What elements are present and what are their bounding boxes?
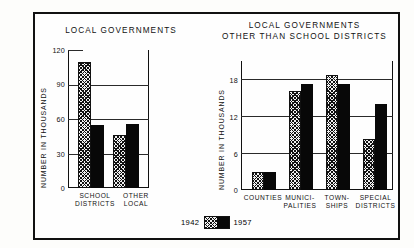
bar-townships-1942[interactable] <box>326 75 338 191</box>
right-chart-panel: LOCAL GOVERNMENTS OTHER THAN SCHOOL DIST… <box>207 14 402 242</box>
right-y-tick-0: 0 <box>221 186 238 195</box>
left-gridline-120 <box>68 50 83 51</box>
left-y-tick-90: 90 <box>43 80 65 89</box>
right-x-label-municipalities: MUNICI- PALITIES <box>279 194 321 210</box>
right-y-tick-6: 6 <box>221 150 238 159</box>
solid-swatch <box>217 217 229 228</box>
left-y-tick-120: 120 <box>43 46 65 55</box>
right-x-label-townships: TOWN- SHIPS <box>317 194 357 210</box>
bar-townships-1957[interactable] <box>338 84 350 190</box>
bar-other-local-1942[interactable] <box>113 135 126 188</box>
left-x-label-school-districts: SCHOOL DISTRICTS <box>74 192 116 208</box>
right-x-label-special-districts: SPECIAL DISTRICTS <box>353 194 398 210</box>
bar-special-districts-1957[interactable] <box>375 104 387 190</box>
left-y-tick-30: 30 <box>43 150 65 159</box>
right-plot-area <box>241 61 393 190</box>
left-plot-area <box>68 50 149 188</box>
right-chart-title: LOCAL GOVERNMENTS OTHER THAN SCHOOL DIST… <box>207 21 402 42</box>
left-x-label-other-local: OTHER LOCAL <box>116 192 156 208</box>
legend-swatch <box>204 216 230 229</box>
chart-frame: LOCAL GOVERNMENTS NUMBER IN THOUSANDS 12… <box>33 12 400 240</box>
right-gridline-12 <box>241 116 393 117</box>
left-y-tick-0: 0 <box>43 184 65 193</box>
bar-counties-1957[interactable] <box>264 172 276 190</box>
left-chart-title: LOCAL GOVERNMENTS <box>39 26 203 37</box>
right-x-label-counties: COUNTIES <box>242 194 284 202</box>
bar-counties-1942[interactable] <box>252 172 264 190</box>
legend-label-1942: 1942 <box>181 218 200 227</box>
bar-municipalities-1942[interactable] <box>289 91 301 190</box>
left-chart-panel: LOCAL GOVERNMENTS NUMBER IN THOUSANDS 12… <box>35 14 207 242</box>
bar-other-local-1957[interactable] <box>126 124 139 188</box>
right-y-tick-18: 18 <box>221 76 238 85</box>
chart-legend: 1942 1957 <box>35 216 398 229</box>
hatched-swatch <box>205 217 217 228</box>
legend-label-1957: 1957 <box>234 218 253 227</box>
bar-special-districts-1942[interactable] <box>363 139 375 190</box>
right-gridline-18 <box>241 79 393 80</box>
bar-school-districts-1957[interactable] <box>91 125 104 188</box>
bar-school-districts-1942[interactable] <box>78 62 91 189</box>
right-y-tick-12: 12 <box>221 113 238 122</box>
bar-municipalities-1957[interactable] <box>301 84 313 190</box>
left-y-tick-60: 60 <box>43 115 65 124</box>
